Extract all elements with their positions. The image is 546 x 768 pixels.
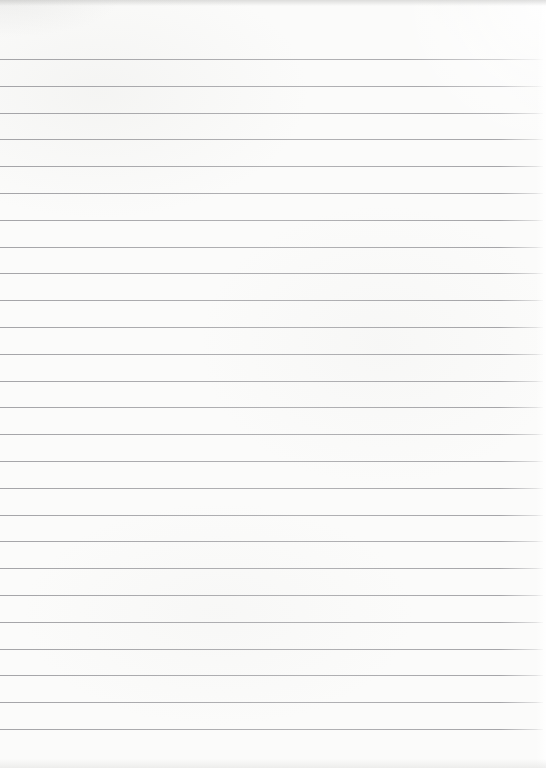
ruled-line [0,327,543,328]
ruled-line [0,220,543,221]
ruled-line [0,113,543,114]
ruled-line [0,300,543,301]
ruled-line [0,649,543,650]
ruled-lines-container [0,0,546,768]
ruled-line [0,488,543,489]
ruled-line [0,461,543,462]
ruled-line [0,515,543,516]
ruled-line [0,247,543,248]
ruled-line [0,59,543,60]
ruled-line [0,729,543,730]
ruled-line [0,354,543,355]
ruled-line [0,86,543,87]
lined-paper-sheet [0,0,546,768]
ruled-line [0,434,543,435]
ruled-line [0,568,543,569]
ruled-line [0,541,543,542]
ruled-line [0,273,543,274]
ruled-line [0,702,543,703]
ruled-line [0,381,543,382]
ruled-line [0,166,543,167]
ruled-line [0,139,543,140]
ruled-line [0,622,543,623]
ruled-line [0,407,543,408]
ruled-line [0,595,543,596]
ruled-line [0,675,543,676]
ruled-line [0,193,543,194]
